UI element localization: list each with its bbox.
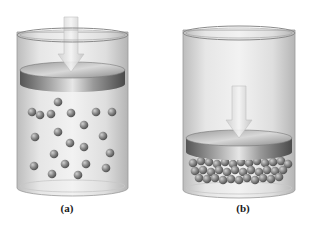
gas-molecule: [61, 160, 70, 169]
gas-molecule: [108, 108, 117, 117]
gas-molecule: [36, 111, 45, 120]
gas-molecule: [195, 174, 204, 183]
gas-molecule: [235, 176, 244, 185]
gas-molecule: [66, 139, 75, 148]
gas-molecule: [102, 164, 111, 173]
gas-molecule: [211, 174, 220, 183]
gas-molecule: [259, 174, 268, 183]
gas-molecule: [54, 98, 63, 107]
gas-molecule: [251, 176, 260, 185]
gas-molecule: [67, 109, 76, 118]
gas-molecule: [227, 175, 236, 184]
figure-canvas: [0, 0, 313, 227]
gas-molecule: [74, 171, 83, 180]
gas-molecule: [203, 175, 212, 184]
gas-molecule: [205, 158, 214, 167]
gas-molecule: [30, 162, 39, 171]
cylinder-panel-a: [17, 17, 128, 196]
gas-molecule: [48, 170, 57, 179]
gas-molecule: [47, 110, 56, 119]
gas-molecule: [267, 175, 276, 184]
gas-molecule: [247, 166, 256, 175]
gas-molecule: [31, 133, 40, 142]
panel-label-b: (b): [223, 202, 263, 214]
gas-molecule: [80, 121, 89, 130]
gas-molecule: [269, 158, 278, 167]
gas-molecule: [82, 160, 91, 169]
gas-molecule: [189, 159, 198, 168]
gas-compression-figure: (a) (b): [0, 0, 313, 227]
gas-molecule: [219, 176, 228, 185]
gas-molecule: [243, 174, 252, 183]
gas-molecule: [199, 166, 208, 175]
gas-molecule: [80, 143, 89, 152]
gas-molecule: [50, 150, 59, 159]
cylinder-panel-b: [183, 26, 295, 198]
gas-molecule: [28, 108, 37, 117]
gas-molecule: [92, 108, 101, 117]
gas-molecule: [54, 128, 63, 137]
gas-molecule: [106, 149, 115, 158]
panel-label-a: (a): [47, 202, 87, 214]
gas-molecule: [215, 166, 224, 175]
gas-molecule: [263, 166, 272, 175]
gas-molecule: [275, 173, 284, 182]
gas-molecule: [99, 132, 108, 141]
gas-molecule: [231, 166, 240, 175]
